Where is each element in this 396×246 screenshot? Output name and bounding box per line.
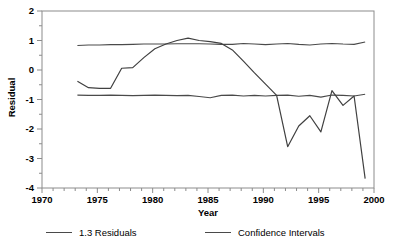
residuals-line [77,38,365,178]
x-tick-label: 1990 [243,195,283,205]
y-tick-label: -4 [8,183,34,193]
legend-item-residuals: 1.3 Residuals [46,225,137,239]
legend-label-confidence-intervals: Confidence Intervals [238,227,325,238]
chart-canvas [0,0,396,212]
chart-figure: 210-1-2-3-4 1970197519801985199019952000… [0,0,396,246]
y-axis-ticks [37,11,42,188]
y-tick-label: -3 [8,154,34,164]
x-axis-ticks [42,188,374,193]
legend-item-confidence-intervals: Confidence Intervals [205,225,325,239]
confidence-interval-lower-line [77,94,365,98]
legend-line-swatch-residuals [46,232,72,233]
y-axis-title: Residual [6,68,17,128]
x-tick-label: 1975 [77,195,117,205]
legend-line-swatch-confidence-intervals [205,232,231,233]
x-axis-title: Year [188,207,228,218]
chart-legend: 1.3 Residuals Confidence Intervals [0,222,396,246]
x-tick-label: 2000 [354,195,394,205]
x-tick-label: 1980 [133,195,173,205]
y-tick-label: 1 [8,36,34,46]
legend-label-residuals: 1.3 Residuals [79,227,137,238]
chart-plot-area: 210-1-2-3-4 1970197519801985199019952000… [0,0,396,212]
y-tick-label: 2 [8,6,34,16]
x-tick-label: 1985 [188,195,228,205]
x-tick-label: 1995 [299,195,339,205]
x-tick-label: 1970 [22,195,62,205]
plot-frame [42,11,374,188]
